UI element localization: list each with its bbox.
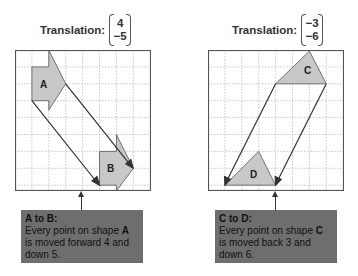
shape-c <box>276 51 327 84</box>
vector-y: −5 <box>114 30 127 43</box>
note-title: A to B: <box>25 213 57 224</box>
note-line2: is moved forward 4 and <box>25 237 139 249</box>
translation-vector: −3 −6 <box>301 14 323 46</box>
shape-d-label: D <box>250 169 257 180</box>
vector-x: −3 <box>306 17 319 30</box>
shape-a-label: A <box>40 79 47 90</box>
note-line1: Every point on shape <box>219 225 316 236</box>
panel-a-to-b: Translation: 4 −5 A B <box>0 0 179 276</box>
coordinate-grid: C D <box>208 50 344 191</box>
translation-vector: 4 −5 <box>109 14 131 46</box>
coordinate-grid: A B <box>15 50 151 191</box>
note-title: C to D: <box>219 213 252 224</box>
pointer-arrowhead <box>78 191 84 197</box>
translation-label: Translation: <box>40 24 105 36</box>
shape-c-label: C <box>304 65 311 76</box>
note-line3: down 5. <box>25 249 139 261</box>
note-line2: is moved back 3 and <box>219 237 333 249</box>
note-shape: C <box>316 225 323 236</box>
pointer-arrowhead <box>272 191 278 197</box>
note-line1: Every point on shape <box>25 225 122 236</box>
vector-y: −6 <box>306 30 319 43</box>
vector-x: 4 <box>117 17 123 30</box>
explanation-box: A to B: Every point on shape A is moved … <box>21 210 143 263</box>
translation-header: Translation: 4 −5 <box>40 14 131 46</box>
note-shape: A <box>122 225 129 236</box>
note-line3: down 6. <box>219 249 333 261</box>
panel-c-to-d: Translation: −3 −6 C D C t <box>179 0 358 276</box>
translation-label: Translation: <box>232 24 297 36</box>
shape-b-label: B <box>107 163 114 174</box>
translation-header: Translation: −3 −6 <box>232 14 323 46</box>
explanation-box: C to D: Every point on shape C is moved … <box>215 210 337 263</box>
